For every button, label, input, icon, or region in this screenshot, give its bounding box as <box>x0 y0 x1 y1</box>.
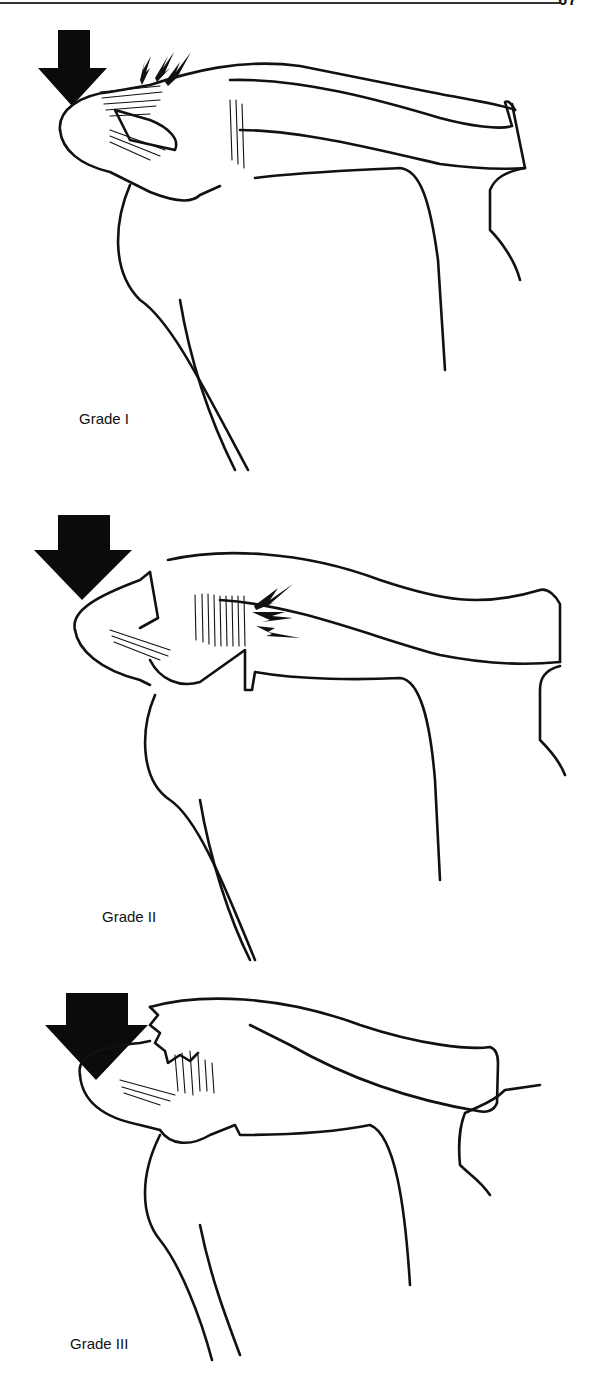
figure-grade-1: Grade I <box>0 0 592 500</box>
figure-caption-grade-2: Grade II <box>102 908 156 925</box>
figure-caption-grade-1: Grade I <box>79 410 129 427</box>
shoulder-illustration-grade-3 <box>0 985 592 1373</box>
figure-grade-2: Grade II <box>0 500 592 970</box>
figure-grade-3: Grade III <box>0 985 592 1373</box>
shoulder-illustration-grade-2 <box>0 500 592 970</box>
force-arrow-icon <box>45 993 148 1080</box>
figure-caption-grade-3: Grade III <box>70 1335 128 1352</box>
force-arrow-icon <box>34 515 132 600</box>
